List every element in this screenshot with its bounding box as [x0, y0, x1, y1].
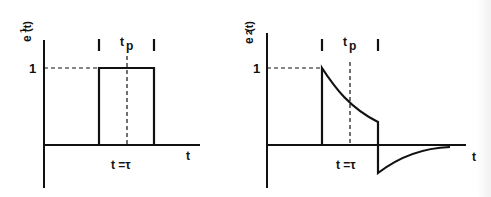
page-edge-shadow [477, 0, 491, 197]
tp-sub: p [126, 39, 133, 53]
panel-right-e2: e 2 (t) 1 t p t =τ t [242, 21, 476, 188]
tau-label: t =τ [111, 158, 131, 172]
tp-label: t [343, 35, 347, 49]
rect-pulse [44, 68, 154, 145]
y-axis-arg: (t) [243, 21, 255, 32]
level-one-label: 1 [253, 61, 260, 76]
tau-label: t =τ [336, 158, 356, 172]
x-axis-label: t [472, 150, 476, 164]
decay-waveform [267, 68, 450, 173]
level-one-label: 1 [29, 61, 36, 76]
y-axis-arg: (t) [21, 21, 33, 32]
tp-sub: p [349, 39, 356, 53]
x-axis-label: t [186, 149, 190, 163]
panel-left-e1: e 1 (t) 1 t p t =τ t [18, 21, 200, 188]
y-label-arg: (t) [21, 21, 33, 32]
tp-label: t [120, 35, 124, 49]
y-label-main: e [242, 37, 256, 44]
y-label-arg: (t) [243, 21, 255, 32]
pulse-response-diagram: e 1 (t) 1 t p t =τ t e 2 (t) [0, 0, 491, 197]
y-label-main: e [20, 35, 34, 42]
